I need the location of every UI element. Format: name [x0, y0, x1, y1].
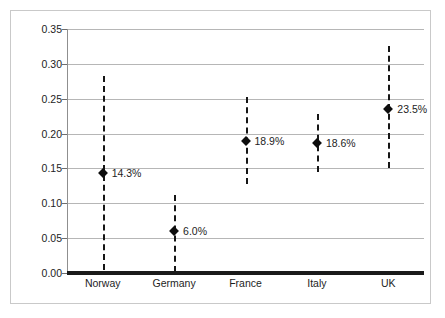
y-axis-tick-mark — [62, 273, 67, 274]
x-axis-category-label: Italy — [307, 278, 326, 289]
x-axis-baseline — [67, 271, 424, 275]
y-axis-tick-label: 0.20 — [22, 129, 62, 140]
y-axis-tick-label: 0.35 — [22, 24, 62, 35]
y-axis-tick-label: 0.15 — [22, 163, 62, 174]
y-axis-tick-mark — [62, 99, 67, 100]
gridline — [67, 64, 424, 65]
y-axis-tick-label: 0.00 — [22, 268, 62, 279]
chart-figure: 14.3%6.0%18.9%18.6%23.5% 0.000.050.100.1… — [0, 0, 445, 318]
data-point-marker — [169, 226, 179, 236]
y-axis-tick-label: 0.10 — [22, 198, 62, 209]
y-axis-tick-mark — [62, 168, 67, 169]
x-axis-category-label: France — [229, 278, 262, 289]
data-point-label: 14.3% — [112, 168, 142, 179]
data-point-marker — [98, 168, 108, 178]
gridline — [67, 203, 424, 204]
x-axis-category-label: Norway — [85, 278, 121, 289]
data-point-label: 23.5% — [397, 104, 427, 115]
data-point-marker — [383, 104, 393, 114]
y-axis-tick-label: 0.30 — [22, 59, 62, 70]
data-point-label: 6.0% — [183, 226, 207, 237]
data-point-label: 18.6% — [326, 138, 356, 149]
y-axis-tick-label: 0.05 — [22, 233, 62, 244]
plot-area: 14.3%6.0%18.9%18.6%23.5% — [67, 29, 424, 273]
y-axis-tick-mark — [62, 29, 67, 30]
data-point-marker — [241, 136, 251, 146]
y-axis-tick-label: 0.25 — [22, 94, 62, 105]
y-axis-tick-mark — [62, 64, 67, 65]
y-axis-tick-mark — [62, 238, 67, 239]
gridline — [67, 238, 424, 239]
data-point-label: 18.9% — [255, 136, 285, 147]
y-axis-tick-mark — [62, 134, 67, 135]
x-axis-category-label: Germany — [153, 278, 196, 289]
gridline — [67, 29, 424, 30]
x-axis-category-label: UK — [381, 278, 396, 289]
data-point-marker — [312, 138, 322, 148]
y-axis-tick-mark — [62, 203, 67, 204]
y-axis-line — [67, 29, 68, 274]
